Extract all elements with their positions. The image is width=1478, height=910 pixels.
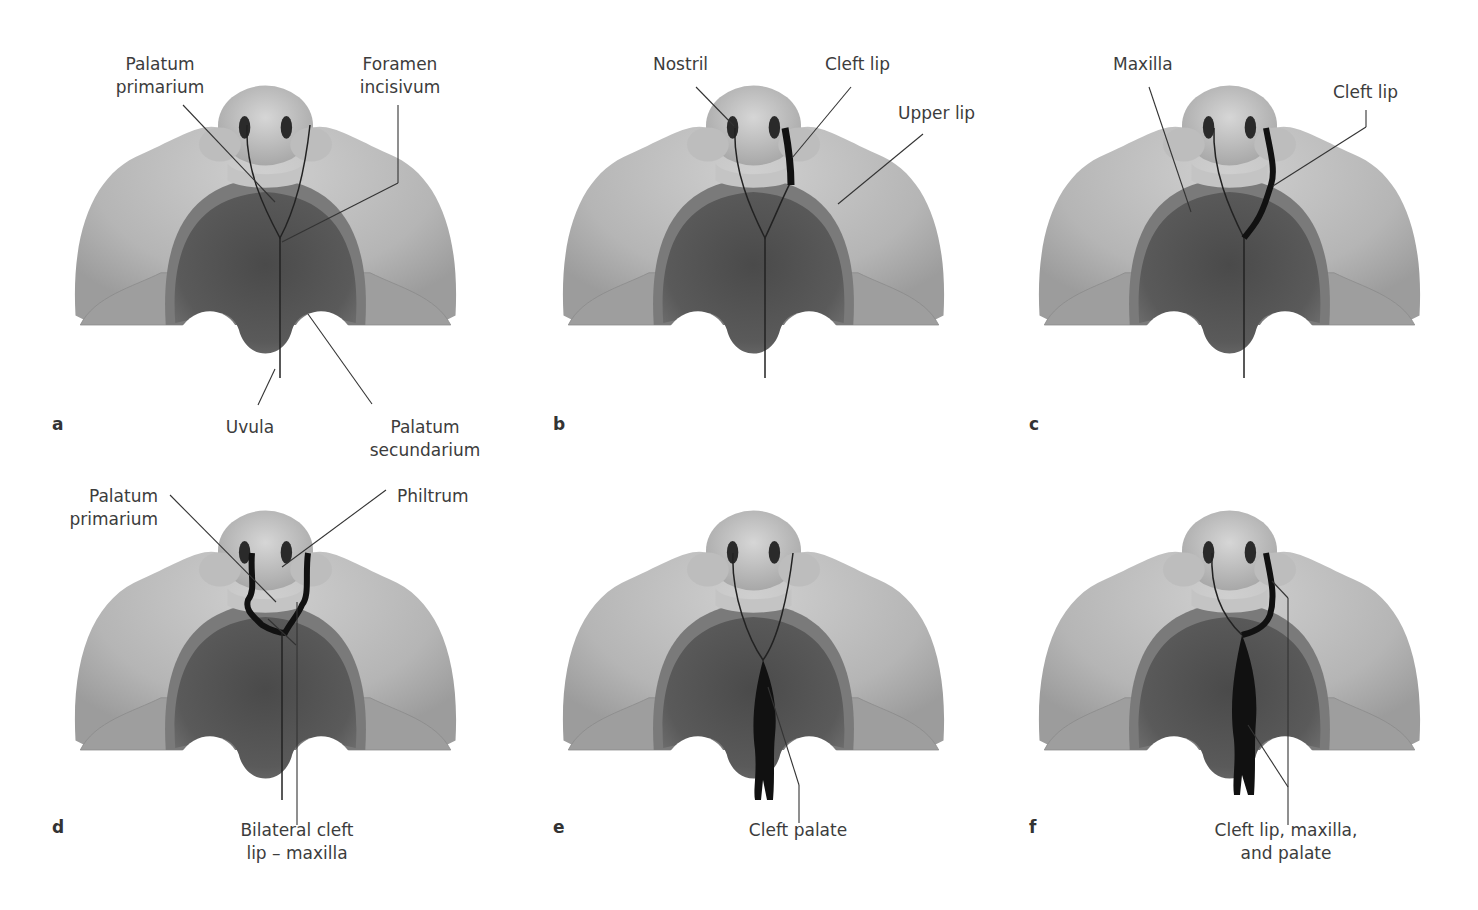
panel-e: Cleft palate e <box>493 455 986 910</box>
panel-f: Cleft lip, maxilla, and palate f <box>986 455 1478 910</box>
panel-letter-a: a <box>52 414 63 434</box>
panel-c: Maxilla Cleft lip c <box>986 0 1478 455</box>
panel-letter-c: c <box>1029 414 1039 434</box>
label-nostril: Nostril <box>653 53 708 76</box>
label-upper-lip: Upper lip <box>898 102 975 125</box>
label-cleft-palate: Cleft palate <box>733 819 863 842</box>
panel-letter-e: e <box>553 817 565 837</box>
label-cleft-lip-maxilla-palate: Cleft lip, maxilla, and palate <box>1196 819 1376 865</box>
label-maxilla: Maxilla <box>1113 53 1173 76</box>
palate-illustration-cleft-lip <box>493 0 986 455</box>
panel-letter-b: b <box>553 414 565 434</box>
label-philtrum: Philtrum <box>397 485 468 508</box>
panel-b: Nostril Cleft lip Upper lip b <box>493 0 986 455</box>
label-foramen-incisivum: Foramen incisivum <box>345 53 455 99</box>
label-palatum-primarium: Palatum primarium <box>58 485 158 531</box>
label-cleft-lip: Cleft lip <box>825 53 890 76</box>
panel-letter-f: f <box>1029 817 1036 837</box>
panel-a: Palatum primarium Foramen incisivum Uvul… <box>0 0 493 455</box>
panel-letter-d: d <box>52 817 64 837</box>
panel-d: Palatum primarium Philtrum Bilateral cle… <box>0 455 493 910</box>
label-palatum-primarium: Palatum primarium <box>110 53 210 99</box>
palate-illustration-cleft-lip-maxilla <box>986 0 1478 455</box>
label-bilateral-cleft-lip-maxilla: Bilateral cleft lip – maxilla <box>222 819 372 865</box>
label-uvula: Uvula <box>205 416 295 439</box>
label-cleft-lip: Cleft lip <box>1333 81 1398 104</box>
